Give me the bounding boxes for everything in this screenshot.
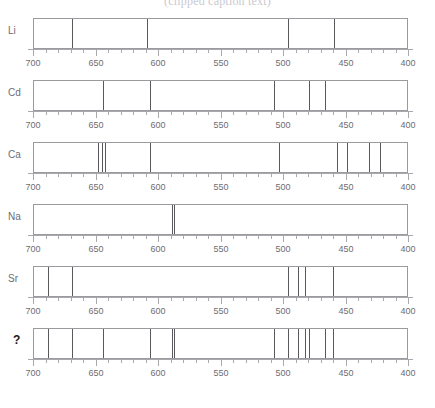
spectral-line (174, 205, 175, 234)
axis-tick-minor (108, 297, 109, 301)
axis-tick-minor (171, 297, 172, 301)
axis-tick-minor (383, 49, 384, 53)
axis-tick-label: 550 (213, 244, 228, 254)
axis-tick-minor (121, 359, 122, 363)
axis-tick-label: 500 (275, 368, 290, 378)
spectral-line (337, 143, 338, 172)
axis-tick-label: 450 (338, 368, 353, 378)
axis-tick-minor (333, 359, 334, 363)
spectral-line (279, 143, 280, 172)
axis-tick-label: 500 (275, 58, 290, 68)
axis-tick-major (346, 111, 347, 118)
axis-tick-minor (58, 111, 59, 115)
spectrum-label-sr: Sr (8, 273, 30, 285)
axis-tick-major (346, 49, 347, 56)
axis-tick-label: 450 (338, 182, 353, 192)
axis-tick-minor (308, 49, 309, 53)
axis-tick-major (158, 359, 159, 366)
axis-tick-minor (108, 111, 109, 115)
axis-tick-minor (333, 297, 334, 301)
axis-tick-minor (83, 359, 84, 363)
axis-tick-minor (146, 297, 147, 301)
axis-tick-minor (146, 173, 147, 177)
spectral-line (48, 267, 49, 296)
axis-tick-label: 500 (275, 120, 290, 130)
axis-tick-major (33, 359, 34, 366)
axis-tick-minor (308, 111, 309, 115)
wavelength-axis: 700650600550500450400 (28, 359, 413, 381)
axis-tick-minor (146, 359, 147, 363)
axis-tick-minor (108, 173, 109, 177)
axis-tick-minor (271, 235, 272, 239)
spectral-line (150, 143, 151, 172)
spectrum-plot-li (33, 18, 408, 49)
axis-tick-minor (271, 49, 272, 53)
axis-tick-minor (258, 49, 259, 53)
axis-tick-major (283, 235, 284, 242)
axis-tick-minor (396, 49, 397, 53)
axis-tick-minor (121, 111, 122, 115)
axis-tick-label: 550 (213, 58, 228, 68)
axis-tick-label: 500 (275, 244, 290, 254)
spectral-line (347, 143, 348, 172)
axis-tick-label: 600 (150, 58, 165, 68)
axis-tick-major (283, 297, 284, 304)
axis-tick-label: 650 (88, 120, 103, 130)
axis-tick-major (158, 173, 159, 180)
spectral-line (325, 81, 326, 110)
axis-tick-minor (71, 297, 72, 301)
axis-tick-major (96, 297, 97, 304)
axis-tick-minor (396, 111, 397, 115)
spectral-line (172, 329, 173, 358)
axis-tick-label: 450 (338, 120, 353, 130)
axis-tick-major (158, 235, 159, 242)
axis-tick-minor (183, 297, 184, 301)
axis-tick-minor (383, 111, 384, 115)
spectral-line (105, 143, 106, 172)
axis-tick-label: 450 (338, 306, 353, 316)
axis-tick-minor (246, 111, 247, 115)
spectral-line (98, 143, 99, 172)
axis-tick-major (158, 111, 159, 118)
spectral-line (298, 329, 299, 358)
axis-tick-minor (321, 173, 322, 177)
axis-tick-label: 400 (400, 182, 415, 192)
axis-tick-minor (208, 359, 209, 363)
axis-tick-minor (308, 297, 309, 301)
axis-tick-minor (296, 297, 297, 301)
axis-tick-minor (71, 173, 72, 177)
axis-tick-minor (121, 297, 122, 301)
axis-tick-minor (146, 235, 147, 239)
spectrum-plot-na (33, 204, 408, 235)
spectral-line (72, 19, 73, 48)
spectrum-row: ?700650600550500450400 (0, 321, 435, 383)
axis-tick-label: 700 (25, 58, 40, 68)
axis-tick-minor (196, 173, 197, 177)
axis-tick-minor (196, 235, 197, 239)
axis-tick-minor (271, 359, 272, 363)
spectrum-row: Li700650600550500450400 (0, 11, 435, 73)
spectral-line (369, 143, 370, 172)
spectral-line (333, 329, 334, 358)
axis-tick-major (408, 235, 409, 242)
axis-tick-minor (58, 359, 59, 363)
axis-tick-minor (208, 235, 209, 239)
axis-tick-minor (271, 173, 272, 177)
axis-tick-label: 400 (400, 306, 415, 316)
spectrum-plot-sr (33, 266, 408, 297)
axis-tick-minor (183, 173, 184, 177)
axis-tick-minor (296, 359, 297, 363)
spectral-line (103, 81, 104, 110)
axis-tick-label: 550 (213, 368, 228, 378)
axis-tick-minor (121, 49, 122, 53)
axis-tick-minor (321, 359, 322, 363)
axis-tick-label: 600 (150, 306, 165, 316)
spectral-line (172, 205, 173, 234)
axis-tick-minor (121, 235, 122, 239)
axis-tick-minor (396, 359, 397, 363)
axis-tick-minor (271, 111, 272, 115)
axis-tick-major (221, 235, 222, 242)
axis-tick-minor (233, 111, 234, 115)
spectrum-row: Na700650600550500450400 (0, 197, 435, 259)
spectral-line (147, 19, 148, 48)
